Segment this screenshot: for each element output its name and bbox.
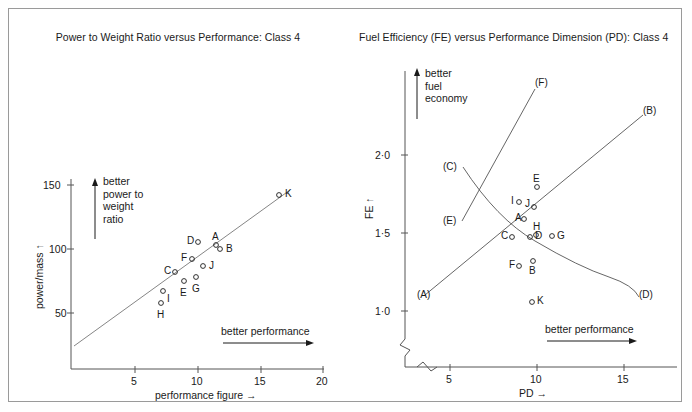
left-annotation-horizontal: better performance [221,325,310,338]
right-xtick-label-15: 15 [617,373,629,385]
left-point-label-H: H [157,309,164,320]
right-ytick-label-2-0: 2·0 [375,149,390,161]
right-curve-label-F: (F) [535,77,548,88]
right-point-K [530,300,535,305]
left-point-E [182,279,187,284]
right-data-markers [510,185,555,305]
right-point-C [510,235,515,240]
right-horizontal-arrow-icon [547,338,637,344]
left-x-axis-label: performance figure → [155,389,257,401]
left-point-H [159,301,164,306]
right-point-label-F: F [509,259,515,270]
right-point-label-G: G [557,230,565,241]
right-ytick-label-1-0: 1·0 [375,305,390,317]
figure-frame: Power to Weight Ratio versus Performance… [8,8,682,402]
right-curve-label-D: (D) [639,289,653,300]
left-point-D [196,240,201,245]
right-y-axis-break-icon [400,339,410,367]
right-annotation-vertical: better fuel economy [425,67,468,105]
right-xtick-label-5: 5 [446,373,452,385]
right-point-label-B: B [529,265,536,276]
right-curve-label-B: (B) [643,105,656,116]
left-point-label-B: B [226,243,233,254]
right-curve-label-C: (C) [443,161,457,172]
right-ytick-label-1-5: 1·5 [375,227,390,239]
right-curve-CD [463,167,639,297]
left-annotation-vertical: better power to weight ratio [103,175,143,225]
right-y-axis-label: FE ↑ [363,197,375,219]
left-point-I [161,289,166,294]
left-ytick-label-50: 50 [55,307,67,319]
left-y-axis-label: power/mass ↑ [33,244,45,309]
right-point-label-K: K [537,295,544,306]
left-point-G [194,275,199,280]
left-point-label-G: G [192,283,200,294]
right-point-label-E: E [533,173,540,184]
right-point-E [535,185,540,190]
left-xtick-label-20: 20 [316,375,328,387]
left-point-J [201,264,206,269]
right-xtick-label-10: 10 [530,373,542,385]
right-curve-label-A: (A) [417,289,430,300]
left-horizontal-arrow-icon [223,340,314,346]
right-point-label-D: D [535,230,542,241]
left-point-label-E: E [180,287,187,298]
panel-power-to-weight: Power to Weight Ratio versus Performance… [9,9,347,403]
right-point-label-J: J [525,198,530,209]
left-vertical-arrow-icon [92,178,98,239]
left-point-label-C: C [164,265,171,276]
left-ytick-label-100: 100 [49,243,67,255]
left-point-label-F: F [181,252,187,263]
left-xtick-label-10: 10 [191,375,203,387]
left-point-label-A: A [212,231,219,242]
left-point-label-K: K [285,188,292,199]
panel-fuel-efficiency: Fuel Efficiency (FE) versus Performance … [347,9,683,403]
right-annotation-horizontal: better performance [545,323,634,336]
right-curve-label-E: (E) [443,215,456,226]
left-point-K [277,193,282,198]
right-point-label-I: I [511,195,514,206]
left-point-label-J: J [209,260,214,271]
right-plot-canvas [347,9,683,403]
left-xtick-label-5: 5 [131,375,137,387]
left-ytick-label-150: 150 [43,179,61,191]
left-xtick-label-15: 15 [254,375,266,387]
right-point-label-A: A [515,212,522,223]
right-point-G [550,234,555,239]
left-plot-canvas [9,9,347,403]
right-vertical-arrow-icon [414,68,420,119]
right-point-B [531,259,536,264]
left-point-B [218,247,223,252]
right-point-A [522,217,527,222]
right-point-F [517,264,522,269]
left-point-label-I: I [167,293,170,304]
right-point-label-C: C [501,230,508,241]
right-point-I [517,200,522,205]
left-point-label-D: D [187,235,194,246]
right-x-axis-label: PD → [519,387,547,399]
